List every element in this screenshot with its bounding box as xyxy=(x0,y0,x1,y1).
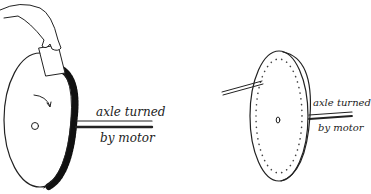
right-panel xyxy=(222,51,352,181)
axle xyxy=(309,112,352,119)
left-label-line1: axle turned xyxy=(96,106,165,118)
perforated-disc xyxy=(250,51,310,181)
left-panel xyxy=(0,4,152,188)
right-label-line2: by motor xyxy=(318,123,364,133)
siren-disc-diagram: axle turned by motor axle turned by moto… xyxy=(0,0,371,194)
left-label-line2: by motor xyxy=(100,132,155,144)
right-label-line1: axle turned xyxy=(313,98,371,108)
axle xyxy=(76,121,152,127)
hand xyxy=(0,4,61,50)
